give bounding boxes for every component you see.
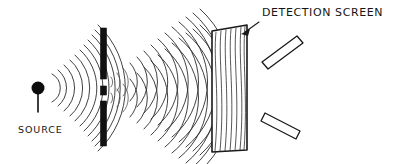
barrier-segment-bottom [101,101,107,146]
detection-screen-label: DETECTION SCREEN [262,6,383,19]
barrier-segment-middle [101,86,107,95]
lower-detector-bar [261,113,300,139]
incident-wavefronts-group [52,25,125,151]
source-dot [32,82,45,95]
detector-bars-group [261,36,303,139]
detection-screen-panel [212,25,247,152]
diagram-canvas: DETECTION SCREEN SOURCE [0,0,401,164]
source-emitter [32,82,45,113]
source-label: SOURCE [18,124,63,135]
double-slit-barrier [101,28,107,146]
double-slit-diagram: DETECTION SCREEN SOURCE [0,0,401,164]
upper-detector-bar [262,36,303,69]
barrier-segment-top [101,28,107,79]
